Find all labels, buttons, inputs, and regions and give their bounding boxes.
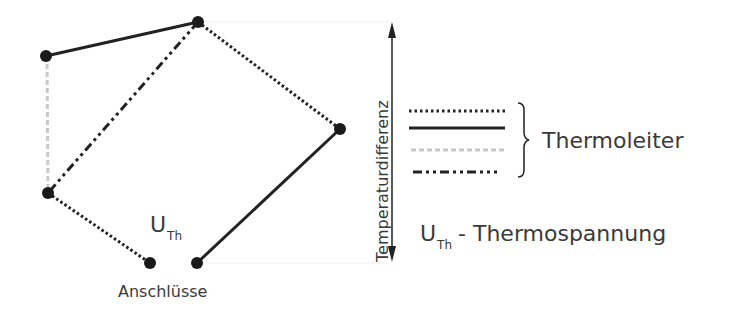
edge-dotted-d-e	[48, 193, 150, 263]
node-b	[192, 16, 204, 28]
terminal-left	[144, 257, 156, 269]
legend-voltage-symbol: U	[420, 221, 436, 246]
edge-dashdot-b-d	[48, 22, 198, 193]
node-d	[42, 187, 54, 199]
voltage-subscript: Th	[167, 229, 182, 243]
legend-thermovoltage: UTh - Thermospannung	[420, 221, 666, 246]
edge-solid-c-f	[197, 129, 340, 263]
legend-thermoleiter-label: Thermoleiter	[542, 128, 683, 153]
thermovoltage-label: UTh	[150, 212, 181, 237]
node-c	[334, 123, 346, 135]
legend-voltage-description: - Thermospannung	[458, 221, 666, 246]
arrow-up-icon	[388, 22, 396, 38]
legend-voltage-subscript: Th	[437, 238, 452, 252]
edge-solid-a-b	[46, 22, 198, 56]
temperature-difference-label: Temperaturdifferenz	[373, 100, 392, 262]
voltage-symbol: U	[150, 212, 166, 237]
terminal-right	[191, 257, 203, 269]
edge-dotted-b-c	[198, 22, 340, 129]
terminals-label: Anschlüsse	[118, 282, 207, 301]
edge-dashed-a-d	[47, 56, 48, 193]
node-a	[40, 50, 52, 62]
brace-icon	[518, 103, 529, 177]
thermocouple-diagram	[0, 0, 737, 309]
